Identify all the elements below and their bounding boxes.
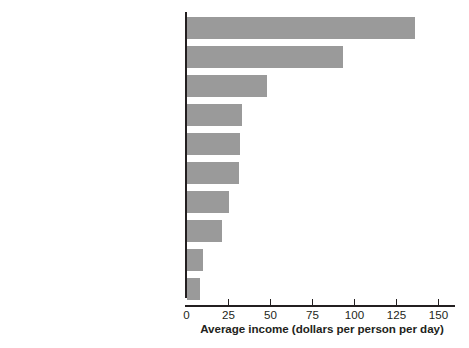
x-axis-title: Average income (dollars per person per d… <box>186 322 458 335</box>
bar <box>187 17 415 39</box>
x-axis-tick-label: 125 <box>387 308 406 321</box>
bar <box>187 162 239 184</box>
x-axis-tick-label: 50 <box>264 308 277 321</box>
bar <box>187 191 229 213</box>
x-axis-tick <box>270 299 271 306</box>
x-axis-tick <box>396 299 397 306</box>
plot-area: United StatesEuro areaRussiaLatin Americ… <box>0 0 469 348</box>
bar <box>187 133 241 155</box>
x-axis-tick <box>438 299 439 306</box>
bar <box>187 75 268 97</box>
x-axis-tick <box>228 299 229 306</box>
bar-chart: United StatesEuro areaRussiaLatin Americ… <box>0 0 469 348</box>
bar <box>187 220 222 242</box>
bar <box>187 46 343 68</box>
x-axis-tick <box>312 299 313 306</box>
x-axis-tick-label: 100 <box>345 308 364 321</box>
x-axis-line <box>185 305 455 307</box>
bar <box>187 104 242 126</box>
x-axis-tick <box>354 299 355 306</box>
bar <box>187 278 200 300</box>
x-axis-tick-label: 0 <box>183 308 189 321</box>
x-axis-tick-label: 150 <box>429 308 448 321</box>
bar <box>187 249 204 271</box>
x-axis-tick-label: 25 <box>222 308 235 321</box>
x-axis-tick-label: 75 <box>306 308 319 321</box>
